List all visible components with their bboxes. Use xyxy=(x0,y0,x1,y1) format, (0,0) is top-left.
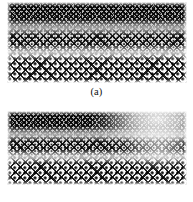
panel-b: (b) xyxy=(0,101,193,202)
panel-a-image xyxy=(7,2,187,83)
mesh-layer-fine xyxy=(7,111,187,136)
mesh-nodes-medium xyxy=(7,26,187,54)
mesh-nodes-medium xyxy=(7,133,187,158)
mesh-nodes-fine xyxy=(7,2,187,30)
mesh-layer-coarse xyxy=(7,155,187,185)
figure-container: (a) (b) xyxy=(0,0,193,202)
mesh-nodes-coarse xyxy=(7,51,187,83)
panel-a: (a) xyxy=(0,0,193,101)
panel-a-caption: (a) xyxy=(0,86,193,97)
mesh-nodes-fine xyxy=(7,111,187,136)
mesh-layer-medium xyxy=(7,133,187,158)
mesh-layer-fine xyxy=(7,2,187,30)
mesh-nodes-coarse xyxy=(7,155,187,185)
panel-b-image xyxy=(7,111,187,185)
mesh-layer-coarse xyxy=(7,51,187,83)
mesh-layer-medium xyxy=(7,26,187,54)
